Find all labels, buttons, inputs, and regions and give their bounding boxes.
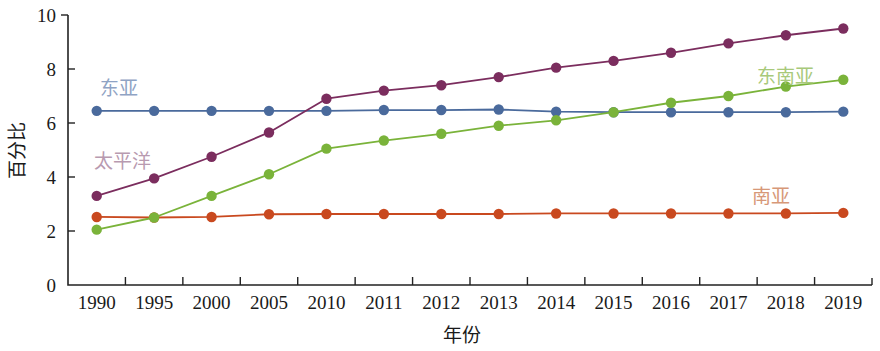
data-point-marker	[551, 62, 561, 72]
x-axis-tick-label: 2010	[307, 292, 345, 313]
data-point-marker	[723, 91, 733, 101]
data-point-marker	[436, 105, 446, 115]
data-point-marker	[494, 104, 504, 114]
series-annotation-labels: 东亚太平洋东南亚南亚	[94, 66, 814, 207]
data-point-marker	[608, 208, 618, 218]
y-axis-tick-label: 6	[47, 113, 57, 134]
data-point-marker	[666, 98, 676, 108]
data-point-marker	[781, 107, 791, 117]
y-axis-tick-label: 2	[47, 221, 57, 242]
data-point-marker	[149, 212, 159, 222]
x-axis-tick-label: 2005	[250, 292, 288, 313]
data-point-marker	[92, 106, 102, 116]
data-point-marker	[608, 107, 618, 117]
data-point-marker	[379, 85, 389, 95]
x-axis-tick-label: 1990	[78, 292, 116, 313]
data-point-marker	[436, 209, 446, 219]
data-point-marker	[494, 209, 504, 219]
data-point-marker	[666, 107, 676, 117]
x-axis-title: 年份	[443, 325, 481, 346]
data-point-marker	[666, 48, 676, 58]
data-point-marker	[551, 115, 561, 125]
x-axis-tick-label: 2000	[193, 292, 231, 313]
data-point-marker	[92, 191, 102, 201]
data-point-marker	[379, 105, 389, 115]
series-label-2: 东南亚	[757, 66, 814, 87]
x-axis-tick-label: 2017	[709, 292, 747, 313]
data-point-marker	[149, 106, 159, 116]
data-point-marker	[264, 106, 274, 116]
data-point-marker	[264, 127, 274, 137]
line-chart: 0246810 19901995200020052010201120122013…	[0, 0, 880, 351]
data-point-marker	[494, 72, 504, 82]
data-point-marker	[723, 208, 733, 218]
data-point-marker	[321, 143, 331, 153]
series-0	[92, 104, 849, 117]
data-point-marker	[436, 80, 446, 90]
data-point-marker	[92, 224, 102, 234]
x-axis-tick-label: 2018	[767, 292, 805, 313]
data-point-marker	[264, 209, 274, 219]
data-point-marker	[608, 56, 618, 66]
data-point-marker	[321, 106, 331, 116]
axis-spine	[68, 15, 872, 285]
x-axis-tick-label: 2016	[652, 292, 690, 313]
series-2	[92, 75, 849, 235]
data-point-marker	[206, 191, 216, 201]
data-point-marker	[838, 75, 848, 85]
x-axis-tick-label: 1995	[135, 292, 173, 313]
y-axis-tick-label: 4	[47, 167, 57, 188]
series-label-3: 南亚	[752, 186, 790, 207]
data-point-marker	[723, 38, 733, 48]
data-point-marker	[838, 106, 848, 116]
series-label-1: 太平洋	[94, 151, 151, 172]
y-axis-tick-label: 8	[47, 59, 57, 80]
y-axis-tick-label: 0	[47, 275, 57, 296]
x-axis-tick-label: 2011	[365, 292, 402, 313]
data-point-marker	[264, 169, 274, 179]
x-axis-tick-labels: 1990199520002005201020112012201320142015…	[78, 292, 863, 313]
data-point-marker	[838, 23, 848, 33]
data-point-marker	[206, 106, 216, 116]
y-axis-title: 百分比	[7, 122, 28, 179]
data-point-marker	[206, 152, 216, 162]
x-axis-tick-label: 2013	[480, 292, 518, 313]
series-3	[92, 208, 849, 223]
y-axis-tick-label: 10	[37, 5, 56, 26]
y-axis-tick-labels: 0246810	[37, 5, 57, 296]
chart-canvas: 0246810 19901995200020052010201120122013…	[0, 0, 880, 351]
data-point-marker	[321, 94, 331, 104]
data-point-marker	[92, 212, 102, 222]
data-point-marker	[551, 208, 561, 218]
data-point-marker	[666, 208, 676, 218]
x-axis-tick-label: 2019	[824, 292, 862, 313]
x-axis-tick-label: 2015	[595, 292, 633, 313]
data-point-marker	[321, 209, 331, 219]
data-point-marker	[781, 208, 791, 218]
data-point-marker	[379, 135, 389, 145]
data-point-marker	[379, 209, 389, 219]
chart-series-group	[92, 23, 849, 235]
data-point-marker	[781, 30, 791, 40]
data-point-marker	[838, 208, 848, 218]
data-point-marker	[723, 107, 733, 117]
data-point-marker	[149, 173, 159, 183]
x-axis-tick-label: 2012	[422, 292, 460, 313]
data-point-marker	[436, 129, 446, 139]
x-axis-tick-label: 2014	[537, 292, 576, 313]
data-point-marker	[494, 121, 504, 131]
series-label-0: 东亚	[100, 78, 138, 99]
chart-axes	[61, 15, 872, 285]
data-point-marker	[206, 212, 216, 222]
